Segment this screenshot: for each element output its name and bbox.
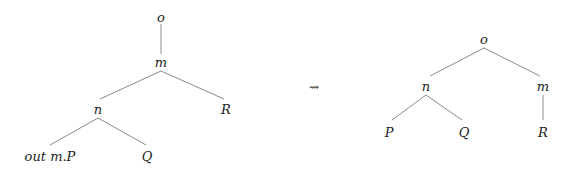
right-node-P: P	[384, 125, 394, 140]
edge-n-P	[392, 95, 426, 120]
edge-m-n	[100, 71, 161, 99]
right-tree-edges	[392, 48, 543, 120]
right-tree: o n m P Q R	[384, 32, 550, 140]
left-tree-edges	[50, 24, 224, 145]
right-node-m: m	[537, 79, 549, 94]
right-node-n: n	[422, 79, 430, 94]
leadsto-arrow-icon: ⇝	[309, 80, 319, 94]
left-node-out-m-P: out m.P	[25, 149, 76, 164]
left-node-m: m	[155, 55, 167, 70]
edge-n-Q	[98, 118, 146, 145]
tree-rewrite-diagram: o m n R out m.P Q ⇝ o n m P Q R	[0, 0, 580, 173]
right-node-o: o	[480, 32, 488, 47]
edge-n-Q	[426, 95, 462, 120]
edge-o-m	[484, 48, 540, 76]
left-node-Q: Q	[142, 149, 153, 164]
edge-n-P	[50, 118, 98, 145]
edge-m-R	[161, 71, 224, 99]
left-node-o: o	[157, 10, 165, 25]
left-tree: o m n R out m.P Q	[25, 10, 231, 164]
right-node-R: R	[537, 125, 548, 140]
left-node-R: R	[220, 102, 231, 117]
left-node-n: n	[94, 102, 102, 117]
right-node-Q: Q	[459, 125, 470, 140]
edge-o-n	[430, 48, 484, 76]
